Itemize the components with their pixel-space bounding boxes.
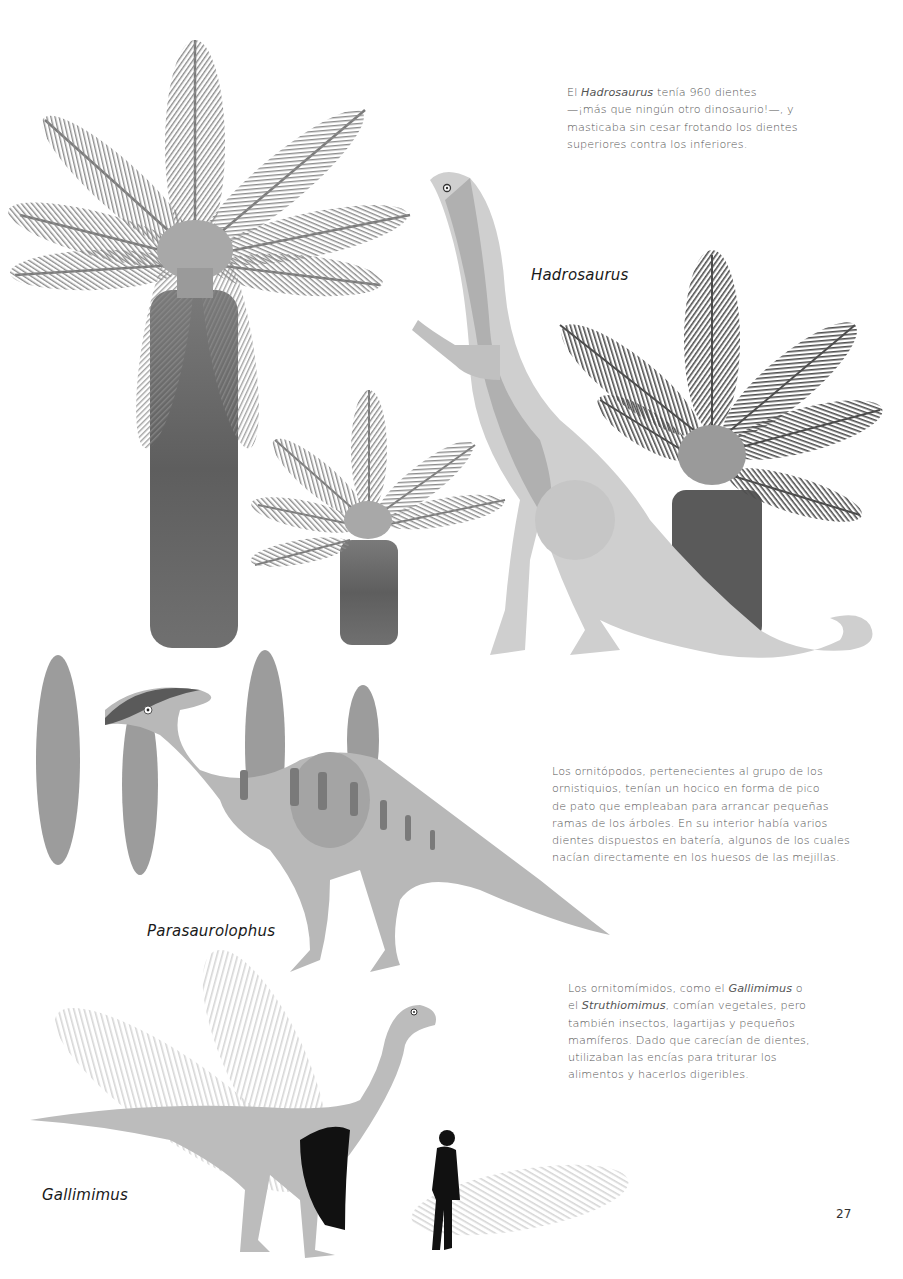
text-span: o <box>792 982 803 995</box>
paragraph-line: también insectos, lagartijas y pequeños <box>568 1015 828 1032</box>
paragraph-line: de pato que empleaban para arrancar pequ… <box>552 798 882 815</box>
text-span: Los ornitomímidos, como el <box>568 982 728 995</box>
paragraph-line: Los ornitópodos, pertenecientes al grupo… <box>552 763 882 780</box>
cycad-small-illustration <box>248 390 506 645</box>
ornithopods-paragraph: Los ornitópodos, pertenecientes al grupo… <box>552 763 882 867</box>
page-illustration <box>0 0 903 1279</box>
page-number: 27 <box>836 1207 851 1221</box>
text-span: , comían vegetales, pero <box>666 999 806 1012</box>
text-span: El <box>567 86 581 99</box>
label-hadrosaurus: Hadrosaurus <box>531 266 629 284</box>
paragraph-line: ramas de los árboles. En su interior hab… <box>552 815 882 832</box>
label-parasaurolophus: Parasaurolophus <box>147 922 275 940</box>
paragraph-line: nacían directamente en los huesos de las… <box>552 849 882 866</box>
species-name-italic: Hadrosaurus <box>581 86 653 99</box>
paragraph-line: utilizaban las encías para triturar los <box>568 1049 828 1066</box>
paragraph-line: superiores contra los inferiores. <box>567 136 807 153</box>
label-gallimimus: Gallimimus <box>42 1186 128 1204</box>
ornithomimids-paragraph: Los ornitomímidos, como el Gallimimus o … <box>568 980 828 1084</box>
paragraph-line: —¡más que ningún otro dinosaurio!—, y <box>567 101 807 118</box>
hadrosaurus-paragraph: El Hadrosaurus tenía 960 dientes —¡más q… <box>567 84 807 153</box>
paragraph-line: masticaba sin cesar frotando los dientes <box>567 119 807 136</box>
species-name-italic: Struthiomimus <box>582 999 666 1012</box>
paragraph-line: alimentos y hacerlos digeribles. <box>568 1066 828 1083</box>
text-span: tenía 960 dientes <box>653 86 756 99</box>
paragraph-line: dientes dispuestos en batería, algunos d… <box>552 832 882 849</box>
paragraph-line: mamíferos. Dado que carecían de dientes, <box>568 1032 828 1049</box>
text-span: el <box>568 999 582 1012</box>
paragraph-line: ornistiquios, tenían un hocico en forma … <box>552 780 882 797</box>
species-name-italic: Gallimimus <box>728 982 792 995</box>
